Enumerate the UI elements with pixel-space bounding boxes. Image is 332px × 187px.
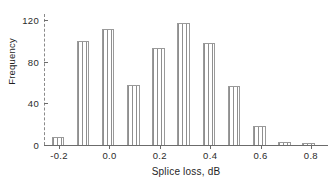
x-axis-line: [44, 145, 328, 146]
y-tick-0: 0: [44, 145, 48, 146]
plot-area: [44, 14, 326, 145]
histogram-bar: [102, 29, 115, 145]
histogram-bar: [177, 23, 190, 145]
x-tick--0.2: [59, 145, 60, 149]
x-tick-label: 0.6: [253, 150, 267, 161]
x-tick-0.0: [109, 145, 110, 149]
x-tick-label: -0.2: [50, 150, 68, 161]
histogram-chart: 04080120 -0.20.00.20.40.60.8 Splice loss…: [0, 0, 332, 187]
histogram-bar: [203, 43, 216, 145]
y-axis-title: Frequency: [6, 27, 17, 97]
x-tick-label: 0.8: [304, 150, 318, 161]
x-tick-label: 0.2: [153, 150, 167, 161]
x-axis-title: Splice loss, dB: [44, 166, 328, 177]
histogram-bar: [253, 126, 266, 145]
histogram-bar: [302, 143, 315, 145]
x-tick-0.6: [261, 145, 262, 149]
histogram-bar: [152, 48, 165, 145]
y-tick-label: 0: [33, 140, 39, 151]
bars-layer: [44, 14, 326, 145]
x-tick-0.8: [311, 145, 312, 149]
histogram-bar: [52, 137, 65, 145]
y-tick-label: 120: [22, 15, 39, 26]
histogram-bar: [127, 85, 140, 145]
histogram-bar: [278, 142, 291, 145]
y-tick-label: 40: [28, 98, 39, 109]
x-tick-0.2: [160, 145, 161, 149]
x-tick-label: 0.4: [203, 150, 217, 161]
histogram-bar: [228, 86, 241, 145]
x-tick-label: 0.0: [102, 150, 116, 161]
histogram-bar: [77, 41, 90, 145]
x-tick-0.4: [210, 145, 211, 149]
y-tick-label: 80: [28, 57, 39, 68]
